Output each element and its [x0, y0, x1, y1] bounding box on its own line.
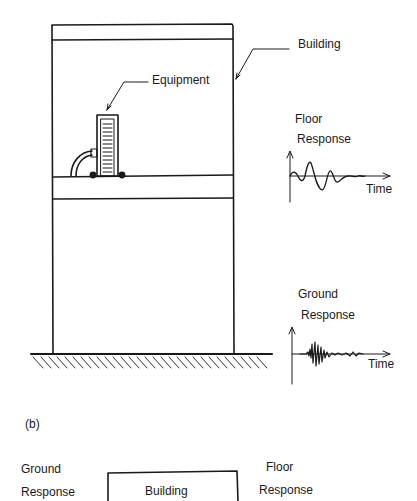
- floor-time-label: Time: [366, 183, 392, 196]
- input-label-1: Ground: [21, 463, 61, 476]
- floor-response-label-1: Floor: [295, 113, 322, 126]
- building-block-label: Building: [145, 485, 188, 498]
- panel-b-caption: (b): [25, 418, 40, 431]
- ground-response-plot: [289, 327, 390, 384]
- building-label: Building: [298, 38, 341, 51]
- output-label-2: Response: [259, 484, 313, 497]
- input-label-2: Response: [21, 486, 75, 499]
- output-label-1: Floor: [266, 461, 293, 474]
- ground-time-label: Time: [368, 358, 394, 371]
- ground-response-label-2: Response: [301, 309, 355, 322]
- ground-response-label-1: Ground: [298, 288, 338, 301]
- equipment-label: Equipment: [152, 74, 209, 87]
- equipment-cabinet: [71, 115, 125, 178]
- floor-response-label-2: Response: [297, 133, 351, 146]
- ground-hatching: [31, 354, 272, 368]
